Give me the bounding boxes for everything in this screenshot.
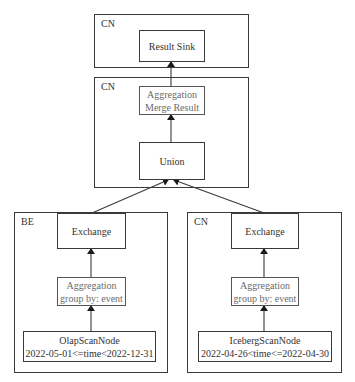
node-union: Union [139,142,205,180]
node-predicate: 2022-05-01<=time<2022-12-31 [25,347,153,360]
node-label: group by: event [60,292,123,305]
fragment-label: BE [21,216,34,227]
node-label: OlapScanNode [59,334,120,347]
node-label: Union [160,155,185,168]
node-label: Exchange [245,225,284,238]
node-exchange-cn: Exchange [231,213,299,249]
node-label: IcebergScanNode [230,334,301,347]
node-label: group by: event [234,292,297,305]
fragment-label: CN [194,216,208,227]
node-label: Result Sink [149,40,195,53]
node-aggregation-merge: Aggregation Merge Result [139,86,205,115]
node-aggregation-cn: Aggregation group by: event [231,277,299,306]
node-label: Merge Result [145,101,199,114]
node-label: Aggregation [147,88,197,101]
node-result-sink: Result Sink [139,30,205,62]
node-label: Aggregation [67,279,117,292]
node-label: Aggregation [240,279,290,292]
node-label: Exchange [72,225,111,238]
node-olap-scan: OlapScanNode 2022-05-01<=time<2022-12-31 [23,331,156,362]
node-iceberg-scan: IcebergScanNode 2022-04-26<time<=2022-04… [198,331,332,362]
node-exchange-be: Exchange [57,213,126,249]
fragment-label: CN [101,18,115,29]
node-predicate: 2022-04-26<time<=2022-04-30 [201,347,329,360]
fragment-label: CN [101,81,115,92]
node-aggregation-be: Aggregation group by: event [57,277,126,306]
